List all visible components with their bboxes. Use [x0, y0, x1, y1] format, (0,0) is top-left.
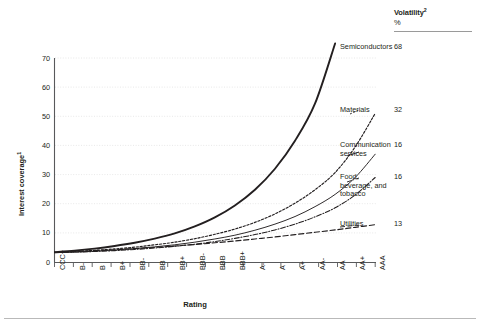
legend-header-title: Volatility2 — [394, 8, 478, 17]
series-line-semiconductors — [55, 43, 336, 252]
x-axis-title: Rating — [0, 300, 390, 309]
x-tick-label: A — [278, 265, 287, 270]
y-tick-label: 10 — [28, 228, 50, 237]
legend-header-title-text: Volatility — [394, 8, 424, 17]
x-tick-label: BB — [158, 260, 167, 270]
x-tick-label: AAA — [378, 255, 387, 270]
legend-label: Materials — [340, 106, 392, 115]
legend-header-footnote: 2 — [424, 7, 427, 13]
x-tick-label: A- — [258, 263, 267, 270]
y-axis-title-text: Interest coverage — [17, 155, 26, 216]
legend-header-unit: % — [394, 18, 478, 27]
series-line-materials — [55, 113, 376, 252]
y-tick-label: 30 — [28, 170, 50, 179]
legend-value: 32 — [394, 106, 402, 115]
x-tick-label: B- — [78, 263, 87, 270]
legend-label: Utilities — [340, 220, 392, 229]
legend-label: Food, beverage, and tobacco — [340, 173, 392, 199]
x-tick-label: BBB — [218, 255, 227, 270]
legend-label: Communication services — [340, 141, 392, 158]
x-tick-label: AA — [338, 260, 347, 270]
x-tick-label: B — [98, 265, 107, 270]
x-tick-label: AA+ — [358, 256, 367, 270]
y-axis-title: Interest coverage1 — [5, 112, 21, 222]
line-chart-plot — [0, 0, 480, 326]
series-line-food-beverage-and-tobacco — [55, 177, 376, 252]
legend-value: 16 — [394, 141, 402, 150]
legend-header: Volatility2 % — [394, 8, 478, 27]
y-tick-label: 70 — [28, 54, 50, 63]
legend-value: 16 — [394, 173, 402, 182]
footer-divider — [4, 318, 476, 319]
legend-value: 68 — [394, 43, 402, 52]
legend-value: 13 — [394, 220, 402, 229]
x-tick-label: A+ — [298, 261, 307, 270]
x-tick-label: CCC+ — [58, 250, 67, 270]
y-tick-label: 50 — [28, 112, 50, 121]
x-tick-label: AA- — [318, 258, 327, 270]
y-tick-label: 60 — [28, 83, 50, 92]
series-curves — [55, 43, 376, 252]
legend-label: Semiconductors — [340, 43, 392, 52]
x-tick-label: BB+ — [178, 256, 187, 270]
y-tick-label: 0 — [28, 258, 50, 267]
gridlines — [55, 58, 376, 233]
legend-leader-lines — [340, 110, 359, 227]
x-tick-label: B+ — [118, 261, 127, 270]
legend-divider — [394, 31, 472, 32]
x-tick-label: BBB+ — [238, 251, 247, 270]
y-tick-label: 20 — [28, 199, 50, 208]
y-tick-label: 40 — [28, 141, 50, 150]
chart-figure: 70 60 50 40 30 20 10 0 CCC+B-BB+BB-BBBB+… — [0, 0, 480, 326]
x-tick-label: BBB- — [198, 253, 207, 270]
y-axis-title-footnote: 1 — [16, 152, 22, 155]
axis-spines — [54, 58, 376, 263]
x-tick-label: BB- — [138, 258, 147, 270]
